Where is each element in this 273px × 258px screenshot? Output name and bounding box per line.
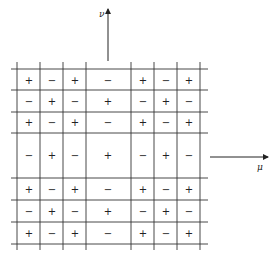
- plus-sign: +: [25, 117, 33, 128]
- plus-sign: +: [139, 228, 147, 239]
- minus-sign: −: [25, 150, 33, 161]
- minus-sign: −: [48, 228, 56, 239]
- minus-sign: −: [139, 150, 147, 161]
- mu-axis: μ: [210, 157, 268, 172]
- plus-sign: +: [139, 75, 147, 86]
- minus-sign: −: [71, 96, 79, 107]
- plus-sign: +: [104, 96, 112, 107]
- minus-sign: −: [71, 206, 79, 217]
- plus-sign: +: [71, 75, 79, 86]
- minus-sign: −: [25, 206, 33, 217]
- plus-sign: +: [139, 117, 147, 128]
- plus-sign: +: [48, 150, 56, 161]
- minus-sign: −: [162, 75, 170, 86]
- plus-sign: +: [48, 206, 56, 217]
- minus-sign: −: [25, 96, 33, 107]
- plus-sign: +: [185, 117, 193, 128]
- plus-sign: +: [185, 184, 193, 195]
- mu-axis-label: μ: [257, 162, 263, 172]
- minus-sign: −: [48, 75, 56, 86]
- plus-sign: +: [185, 75, 193, 86]
- plus-sign: +: [71, 117, 79, 128]
- plus-sign: +: [25, 228, 33, 239]
- plus-sign: +: [162, 206, 170, 217]
- plus-sign: +: [104, 150, 112, 161]
- minus-sign: −: [139, 206, 147, 217]
- minus-sign: −: [71, 150, 79, 161]
- minus-sign: −: [162, 117, 170, 128]
- minus-sign: −: [185, 206, 193, 217]
- minus-sign: −: [104, 117, 112, 128]
- minus-sign: −: [48, 184, 56, 195]
- plus-sign: +: [25, 184, 33, 195]
- minus-sign: −: [104, 228, 112, 239]
- plus-sign: +: [71, 228, 79, 239]
- nu-axis-label: ν: [99, 9, 105, 19]
- minus-sign: −: [185, 150, 193, 161]
- minus-sign: −: [162, 228, 170, 239]
- plus-sign: +: [25, 75, 33, 86]
- nu-axis: ν: [99, 9, 108, 61]
- minus-sign: −: [104, 75, 112, 86]
- minus-sign: −: [185, 96, 193, 107]
- plus-sign: +: [162, 96, 170, 107]
- grid-signs: +−+−+−+−+−+−+−+−+−+−+−+−+−+−+−+−+−+−+−+−…: [25, 75, 193, 239]
- minus-sign: −: [139, 96, 147, 107]
- sign-grid-diagram: +−+−+−+−+−+−+−+−+−+−+−+−+−+−+−+−+−+−+−+−…: [0, 0, 273, 258]
- minus-sign: −: [162, 184, 170, 195]
- plus-sign: +: [139, 184, 147, 195]
- minus-sign: −: [104, 184, 112, 195]
- plus-sign: +: [185, 228, 193, 239]
- plus-sign: +: [48, 96, 56, 107]
- minus-sign: −: [48, 117, 56, 128]
- plus-sign: +: [104, 206, 112, 217]
- plus-sign: +: [162, 150, 170, 161]
- plus-sign: +: [71, 184, 79, 195]
